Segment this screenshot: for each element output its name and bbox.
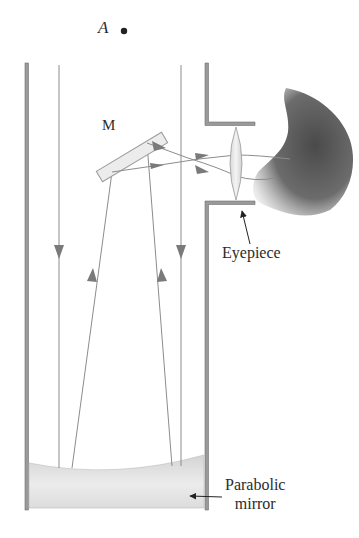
tube-right-wall-upper	[205, 63, 255, 126]
label-point-a: A	[98, 18, 108, 38]
up-arrow-left-icon	[87, 268, 97, 282]
parabolic-mirror	[29, 455, 204, 508]
tube-left-wall	[25, 63, 29, 510]
eyepiece-lens	[230, 127, 242, 200]
label-parabolic-mirror: Parabolic mirror	[225, 475, 285, 513]
eyepiece-pointer-arrow	[242, 211, 250, 244]
reflected-ray-left	[72, 172, 112, 468]
reflected-ray-right	[147, 143, 172, 466]
label-parabolic-mirror-line2: mirror	[225, 494, 285, 513]
label-secondary-mirror: M	[102, 117, 115, 134]
secondary-mirror-m	[96, 132, 167, 181]
telescope-diagram	[0, 0, 359, 538]
down-arrow-right-icon	[176, 245, 186, 259]
up-arrow-right-icon	[157, 268, 167, 282]
point-a-dot	[121, 28, 127, 34]
label-parabolic-mirror-line1: Parabolic	[225, 475, 285, 494]
ray-to-eyepiece-upper	[147, 143, 275, 180]
observer-head-icon	[253, 88, 353, 216]
ray-arrow-2-icon	[150, 163, 164, 169]
label-eyepiece: Eyepiece	[222, 244, 281, 262]
ray-arrow-4-icon	[195, 165, 209, 174]
down-arrow-left-icon	[54, 245, 64, 259]
